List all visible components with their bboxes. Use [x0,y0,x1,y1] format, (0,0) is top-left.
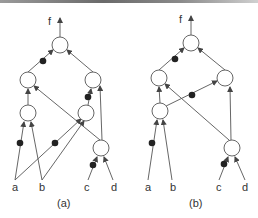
node-output [52,37,68,53]
caption-b: (b) [189,197,202,209]
inverter-dot [40,58,47,65]
edge [163,120,172,180]
input-label-a: a [12,181,19,193]
logic-network-diagram: f a b c d (a) f a b c d (b) [0,0,258,218]
edge [159,87,160,103]
inverter-dot [189,92,196,99]
edge [219,157,228,180]
input-label-d: d [111,181,117,193]
edge [88,157,97,180]
inverter-dot [52,140,59,147]
edge [159,48,184,70]
inverter-dot [172,56,179,63]
edge [235,157,245,180]
node [20,105,36,121]
edge [15,122,24,180]
input-label-b: b [39,181,45,193]
edge [100,86,102,140]
edge [230,87,231,140]
node [217,70,233,86]
edge [42,121,84,180]
node [78,105,94,121]
node [93,140,109,156]
node [85,72,101,88]
edge [31,122,42,180]
inverter-dot [90,162,97,169]
node [152,103,168,119]
caption-a: (a) [57,197,70,209]
edge [104,157,113,180]
inverter-dot [85,94,92,101]
node-output [183,35,199,51]
edge [165,84,229,140]
node [20,72,36,88]
inverter-dot [17,140,24,147]
edge [198,48,225,70]
edge [67,50,93,72]
input-label-d: d [242,181,248,193]
edge [148,120,157,180]
node [151,70,167,86]
inverter-dot [149,140,156,147]
output-label-b: f [179,13,183,25]
input-label-b: b [170,181,176,193]
node [224,140,240,156]
output-label-a: f [48,15,52,27]
input-label-c: c [84,181,90,193]
inverter-dot [221,161,228,168]
input-label-a: a [145,181,152,193]
input-label-c: c [216,181,222,193]
